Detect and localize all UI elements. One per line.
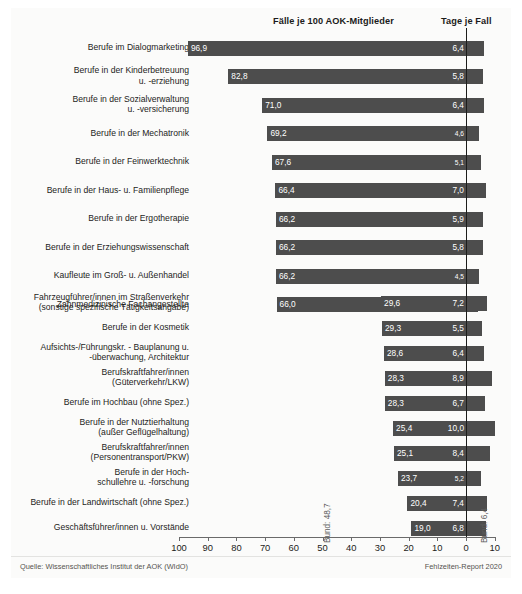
bar-value-faelle: 28,3 xyxy=(388,371,404,386)
bar-faelle: 71,0 xyxy=(262,98,466,113)
row-label: Berufe in der Kosmetik xyxy=(0,322,189,333)
bar-tage xyxy=(466,296,487,311)
bar-value-faelle: 28,6 xyxy=(387,346,403,361)
bar-tage xyxy=(466,446,490,461)
bar-value-faelle: 29,3 xyxy=(385,321,401,336)
bar-value-tage: 5,8 xyxy=(452,240,464,255)
bar-value-tage: 4,6 xyxy=(455,126,464,141)
bar-value-faelle: 69,2 xyxy=(270,126,286,141)
column-header-faelle: Fälle je 100 AOK-Mitglieder xyxy=(273,16,394,26)
bar-tage xyxy=(466,183,486,198)
bar-value-faelle: 67,6 xyxy=(275,155,291,170)
bar-value-tage: 5,8 xyxy=(452,69,464,84)
bar-value-faelle: 23,7 xyxy=(401,471,417,486)
bar-faelle: 69,2 xyxy=(267,126,466,141)
axis-tick xyxy=(236,537,237,541)
bar-value-faelle: 66,2 xyxy=(279,212,295,227)
bar-value-tage: 6,8 xyxy=(452,521,464,536)
axis-tick-label: 70 xyxy=(250,542,280,553)
bar-tage xyxy=(466,41,484,56)
bar-value-tage: 6,4 xyxy=(452,41,464,56)
report-note: Fehlzeiten-Report 2020 xyxy=(425,562,502,571)
row-label: Berufe in der Landwirtschaft (ohne Spez.… xyxy=(0,497,189,508)
bar-value-tage: 8,9 xyxy=(452,371,464,386)
bar-value-faelle: 96,9 xyxy=(191,41,207,56)
bar-value-tage: 10,0 xyxy=(448,421,464,436)
row-label: Berufe in der Nutztierhaltung (außer Gef… xyxy=(0,417,189,438)
bar-tage xyxy=(466,269,479,284)
bar-tage xyxy=(466,126,479,141)
axis-tick-label: 20 xyxy=(394,542,424,553)
column-header-tage: Tage je Fall xyxy=(441,16,492,26)
bar-tage xyxy=(466,69,483,84)
axis-tick-label: 100 xyxy=(164,542,194,553)
row-label: Berufe in der Mechatronik xyxy=(0,128,189,139)
row-label: Berufskraftfahrer/innen (Güterverkehr/LK… xyxy=(0,367,189,388)
bar-value-faelle: 66,0 xyxy=(280,297,296,312)
bar-value-tage: 7,4 xyxy=(452,496,464,511)
bar-value-tage: 6,7 xyxy=(452,396,464,411)
axis-tick-label: 50 xyxy=(308,542,338,553)
axis-tick-label: 30 xyxy=(365,542,395,553)
x-axis-line xyxy=(179,537,495,538)
axis-tick xyxy=(323,537,324,541)
axis-tick xyxy=(294,537,295,541)
axis-tick-label: 10 xyxy=(422,542,452,553)
bar-faelle: 66,2 xyxy=(276,269,466,284)
row-label: Berufe in der Haus- u. Familienpflege xyxy=(0,185,189,196)
axis-tick xyxy=(409,537,410,541)
bar-value-faelle: 66,2 xyxy=(279,240,295,255)
bar-value-tage: 7,2 xyxy=(452,296,464,311)
bar-value-tage: 4,5 xyxy=(455,269,464,284)
row-label: Aufsichts-/Führungskr. - Bauplanung u. -… xyxy=(0,342,189,363)
row-label: Berufe in der Erziehungswissenschaft xyxy=(0,242,189,253)
axis-tick-label: 40 xyxy=(336,542,366,553)
chart-figure: Fälle je 100 AOK-Mitglieder Tage je Fall… xyxy=(0,0,522,594)
bar-tage xyxy=(466,321,482,336)
row-label: Fahrzeugführer/innen im Straßenverkehr (… xyxy=(0,292,189,313)
bar-value-tage: 5,9 xyxy=(452,212,464,227)
bar-tage xyxy=(466,98,484,113)
bar-faelle: 66,2 xyxy=(276,240,466,255)
bar-value-tage: 5,2 xyxy=(455,471,464,486)
axis-tick xyxy=(437,537,438,541)
bar-faelle: 66,4 xyxy=(275,183,466,198)
zero-axis-line xyxy=(466,28,467,538)
bar-tage xyxy=(466,421,495,436)
bar-faelle: 82,8 xyxy=(228,69,466,84)
row-label: Berufe im Hochbau (ohne Spez.) xyxy=(0,397,189,408)
bar-tage xyxy=(466,155,481,170)
axis-tick xyxy=(495,537,496,541)
row-label: Berufe in der Ergotherapie xyxy=(0,213,189,224)
axis-tick xyxy=(380,537,381,541)
bar-value-tage: 6,4 xyxy=(452,98,464,113)
axis-tick xyxy=(208,537,209,541)
axis-tick-label: 0 xyxy=(451,542,481,553)
bar-tage xyxy=(466,240,483,255)
bar-faelle: 67,6 xyxy=(272,155,466,170)
row-label: Berufe in der Kinderbetreuung u. -erzieh… xyxy=(0,65,189,86)
axis-tick-label: 90 xyxy=(193,542,223,553)
bar-value-faelle: 19,0 xyxy=(414,521,430,536)
bar-tage xyxy=(466,212,483,227)
row-label: Berufe in der Sozialverwaltung u. -versi… xyxy=(0,94,189,115)
footer-divider xyxy=(11,556,511,557)
bar-tage xyxy=(466,471,481,486)
bar-faelle: 96,9 xyxy=(188,41,466,56)
row-label: Kaufleute im Groß- u. Außenhandel xyxy=(0,270,189,281)
bar-tage xyxy=(466,346,484,361)
axis-tick xyxy=(466,537,467,541)
bar-value-faelle: 20,4 xyxy=(410,496,426,511)
bar-value-faelle: 25,1 xyxy=(397,446,413,461)
bar-value-tage: 6,4 xyxy=(452,346,464,361)
bar-value-faelle: 28,3 xyxy=(388,396,404,411)
bar-tage xyxy=(466,396,485,411)
bar-value-tage: 5,1 xyxy=(455,155,464,170)
source-note: Quelle: Wissenschaftliches Institut der … xyxy=(20,562,188,571)
axis-tick-label: 10 xyxy=(480,542,510,553)
axis-tick xyxy=(179,537,180,541)
row-label: Berufskraftfahrer/innen (Personentranspo… xyxy=(0,442,189,463)
bar-value-tage: 7,0 xyxy=(452,183,464,198)
row-label: Berufe in der Feinwerktechnik xyxy=(0,156,189,167)
axis-tick-label: 80 xyxy=(221,542,251,553)
